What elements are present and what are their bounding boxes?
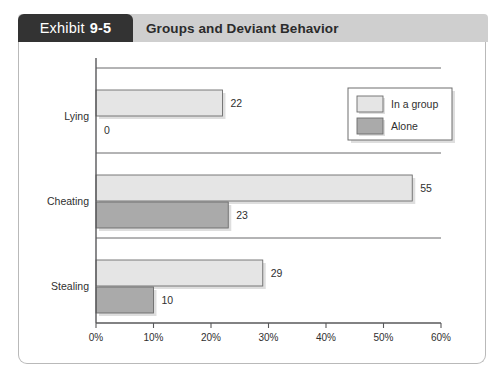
exhibit-number: 9-5: [90, 20, 112, 36]
exhibit-label: Exhibit: [40, 20, 85, 36]
exhibit-title: Groups and Deviant Behavior: [146, 14, 339, 42]
exhibit-page: Exhibit 9-5 Groups and Deviant Behavior …: [0, 0, 501, 378]
exhibit-header: Exhibit 9-5 Groups and Deviant Behavior: [18, 14, 488, 42]
exhibit-tab: Exhibit 9-5: [18, 14, 133, 42]
chart-card: [18, 42, 486, 364]
